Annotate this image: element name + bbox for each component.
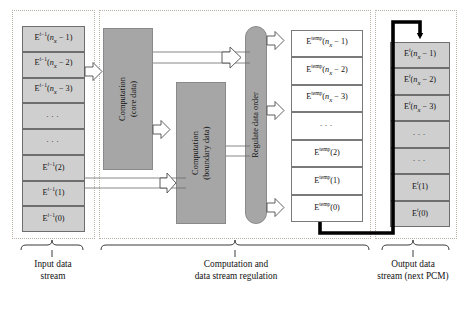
caption-computation-and-regulation: Computation and data stream regulation: [162, 258, 310, 283]
input-stream-cell-2[interactable]: Et−1(nx − 3): [22, 78, 85, 104]
brace-computation: [101, 240, 369, 257]
input-stream-cell-label-1: Et−1(nx − 2): [35, 59, 73, 69]
output-stream-cell-4[interactable]: ···: [390, 148, 450, 174]
temp-stream-cell-label-4: Etemp(2): [314, 149, 340, 157]
computation-core-data-block[interactable]: Computation (core data): [103, 28, 153, 170]
temp-stream-cell-5[interactable]: Etemp(1): [291, 167, 363, 194]
computation-core-data-label: Computation (core data): [118, 77, 139, 121]
temp-stream-cell-3[interactable]: ···: [291, 112, 363, 139]
input-stream-cell-0[interactable]: Et−1(nx − 1): [22, 26, 85, 52]
input-stream-cell-label-4: ···: [46, 137, 61, 146]
temp-stream-cell-6[interactable]: Etemp(0): [291, 195, 363, 222]
output-stream-cell-label-2: Et(nx − 3): [404, 103, 436, 113]
output-stream-cell-3[interactable]: ···: [390, 121, 450, 147]
temp-stream-cell-1[interactable]: Etemp(nx − 2): [291, 57, 363, 84]
input-stream-cell-7[interactable]: Et−1(0): [22, 206, 85, 232]
output-stream-cell-6[interactable]: Et(0): [390, 201, 450, 227]
caption-output-data-stream: Output data stream (next PCM): [353, 258, 467, 283]
input-stream-cell-1[interactable]: Et−1(nx − 2): [22, 52, 85, 78]
output-stream-cell-5[interactable]: Et(1): [390, 174, 450, 200]
output-data-stream-stack: Et(nx − 1)Et(nx − 2)Et(nx − 3)······Et(1…: [390, 42, 450, 227]
output-stream-cell-label-5: Et(1): [412, 183, 428, 191]
input-stream-cell-label-6: Et−1(1): [42, 189, 64, 197]
diagram-canvas: Et−1(nx − 1)Et−1(nx − 2)Et−1(nx − 3)····…: [0, 0, 467, 314]
output-stream-cell-label-1: Et(nx − 2): [404, 76, 436, 86]
output-stream-cell-label-6: Et(0): [412, 210, 428, 218]
output-stream-cell-0[interactable]: Et(nx − 1): [390, 42, 450, 68]
input-stream-cell-label-5: Et−1(2): [42, 164, 64, 172]
temp-stream-cell-label-3: ···: [320, 121, 335, 130]
temp-stream-cell-2[interactable]: Etemp(nx − 3): [291, 85, 363, 112]
output-stream-cell-1[interactable]: Et(nx − 2): [390, 68, 450, 94]
temp-stream-cell-label-1: Etemp(nx − 2): [306, 66, 348, 76]
temp-data-stream-stack: Etemp(nx − 1)Etemp(nx − 2)Etemp(nx − 3)·…: [291, 30, 363, 222]
caption-input-data-stream: Input data stream: [8, 258, 98, 283]
input-data-stream-stack: Et−1(nx − 1)Et−1(nx − 2)Et−1(nx − 3)····…: [22, 26, 85, 232]
regulate-data-order-label: Regulate data order: [251, 92, 262, 158]
brace-output: [382, 240, 449, 257]
output-stream-cell-label-4: ···: [413, 156, 428, 165]
input-stream-cell-label-7: Et−1(0): [42, 215, 64, 223]
input-stream-cell-3[interactable]: ···: [22, 103, 85, 129]
output-stream-cell-2[interactable]: Et(nx − 3): [390, 95, 450, 121]
input-stream-cell-6[interactable]: Et−1(1): [22, 181, 85, 207]
regulate-data-order-block[interactable]: Regulate data order: [245, 26, 267, 224]
input-stream-cell-label-3: ···: [46, 112, 61, 121]
brace-input: [21, 240, 83, 257]
input-stream-cell-4[interactable]: ···: [22, 129, 85, 155]
input-stream-cell-label-0: Et−1(nx − 1): [35, 34, 73, 44]
input-stream-cell-label-2: Et−1(nx − 3): [35, 85, 73, 95]
output-stream-cell-label-0: Et(nx − 1): [404, 50, 436, 60]
temp-stream-cell-4[interactable]: Etemp(2): [291, 140, 363, 167]
computation-boundary-data-label: Computation (boundary data): [191, 126, 212, 179]
temp-stream-cell-label-6: Etemp(0): [314, 204, 340, 212]
temp-stream-cell-label-0: Etemp(nx − 1): [306, 38, 348, 48]
temp-stream-cell-0[interactable]: Etemp(nx − 1): [291, 30, 363, 57]
computation-boundary-data-block[interactable]: Computation (boundary data): [176, 82, 226, 224]
temp-stream-cell-label-5: Etemp(1): [314, 177, 340, 185]
temp-stream-cell-label-2: Etemp(nx − 3): [306, 93, 348, 103]
output-stream-cell-label-3: ···: [413, 130, 428, 139]
input-stream-cell-5[interactable]: Et−1(2): [22, 155, 85, 181]
